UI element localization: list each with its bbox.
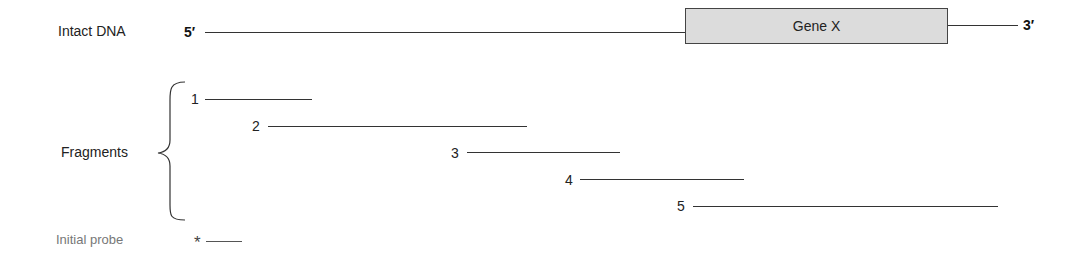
fragment-3-line bbox=[467, 152, 620, 153]
fragment-5-line bbox=[693, 206, 998, 207]
probe-star-icon: * bbox=[194, 233, 201, 253]
fragment-1-number: 1 bbox=[191, 91, 199, 107]
initial-probe-label: Initial probe bbox=[56, 232, 123, 247]
fragment-3-number: 3 bbox=[451, 145, 459, 161]
fragment-2-number: 2 bbox=[252, 118, 260, 134]
probe-line bbox=[206, 241, 242, 242]
fragment-5-number: 5 bbox=[677, 198, 685, 214]
fragment-4-number: 4 bbox=[565, 172, 573, 188]
fragment-4-line bbox=[580, 179, 744, 180]
fragment-2-line bbox=[268, 126, 527, 127]
brace-icon bbox=[0, 0, 1083, 259]
fragment-1-line bbox=[205, 99, 312, 100]
